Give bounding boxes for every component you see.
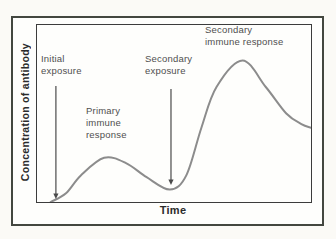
y-axis-label-wrap: Concentration of antibody bbox=[13, 24, 36, 201]
y-axis-label: Concentration of antibody bbox=[19, 43, 31, 181]
plot-area bbox=[36, 24, 312, 203]
annotation-secondary-exposure: Secondary exposure bbox=[145, 53, 192, 77]
annotation-secondary-immune-response: Secondary immune response bbox=[205, 24, 284, 48]
secondary-exposure-arrowhead-icon bbox=[168, 180, 173, 186]
x-axis-label: Time bbox=[36, 204, 310, 216]
annotation-initial-exposure: Initial exposure bbox=[41, 53, 82, 77]
antibody-curve-svg bbox=[37, 25, 311, 202]
immune-response-figure: Concentration of antibody Initial exposu… bbox=[0, 0, 336, 239]
annotation-primary-immune-response: Primary immune response bbox=[86, 105, 127, 141]
